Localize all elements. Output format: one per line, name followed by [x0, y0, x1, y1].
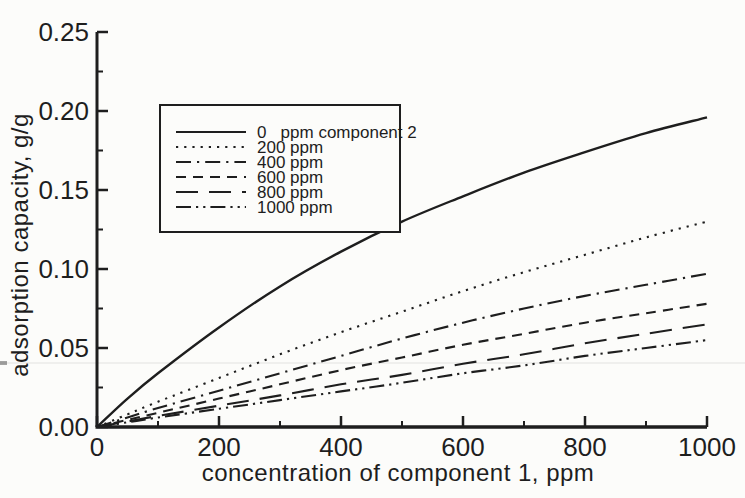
adsorption-isotherm-chart: 020040060080010000.000.050.100.150.200.2…: [0, 0, 745, 498]
y-tick-label: 0.20: [38, 96, 89, 126]
y-axis-title: adsorption capacity, g/g: [6, 113, 33, 377]
x-tick-label: 1000: [678, 432, 736, 462]
y-tick-label: 0.25: [38, 17, 89, 47]
y-tick-label: 0.00: [38, 412, 89, 442]
curve-dash-dot-dot: [97, 340, 707, 427]
curve-dashed: [97, 304, 707, 427]
y-tick-label: 0.05: [38, 333, 89, 363]
x-axis-title: concentration of component 1, ppm: [202, 459, 595, 486]
curve-dotted: [97, 222, 707, 427]
scanned-figure-page: 020040060080010000.000.050.100.150.200.2…: [0, 0, 745, 498]
x-tick-label: 0: [90, 432, 104, 462]
x-tick-label: 600: [441, 432, 484, 462]
curve-long-dash: [97, 324, 707, 427]
axes-layer: 020040060080010000.000.050.100.150.200.2…: [38, 17, 736, 462]
x-tick-label: 400: [319, 432, 362, 462]
scan-artifact: [0, 362, 745, 364]
legend: 0 ppm component 2 200 ppm 400 ppm 600 pp…: [160, 105, 417, 232]
y-tick-label: 0.15: [38, 175, 89, 205]
y-tick-label: 0.10: [38, 254, 89, 284]
x-tick-label: 200: [197, 432, 240, 462]
legend-label: 1000 ppm: [257, 198, 333, 217]
x-tick-label: 800: [563, 432, 606, 462]
